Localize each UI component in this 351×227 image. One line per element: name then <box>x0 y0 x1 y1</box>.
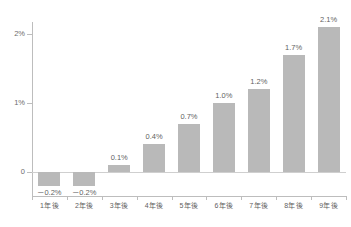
bar-value-label: 1.7% <box>285 44 302 52</box>
y-tick-label: 2% <box>1 30 25 38</box>
bar <box>38 172 60 186</box>
bar-value-label: 0.7% <box>180 113 197 121</box>
y-tick-mark <box>27 103 32 104</box>
bar-value-label: 1.2% <box>250 78 267 86</box>
x-axis-category-label: 1年後 <box>40 202 59 210</box>
x-axis-category-label: 2年後 <box>75 202 94 210</box>
bar <box>213 103 235 172</box>
y-tick-label: 1% <box>1 99 25 107</box>
x-axis-category-label: 4年後 <box>145 202 164 210</box>
x-axis-category-label: 5年後 <box>180 202 199 210</box>
x-tick-mark <box>346 196 347 200</box>
x-axis-category-label: 7年後 <box>249 202 268 210</box>
x-tick-mark <box>137 196 138 200</box>
y-tick-mark <box>27 172 32 173</box>
bar <box>73 172 95 186</box>
y-tick-label: 0 <box>1 168 25 176</box>
x-tick-mark <box>276 196 277 200</box>
x-tick-mark <box>67 196 68 200</box>
x-axis-category-label: 8年後 <box>284 202 303 210</box>
x-tick-mark <box>206 196 207 200</box>
bar-value-label: －0.2% <box>37 189 61 197</box>
x-tick-mark <box>102 196 103 200</box>
bar <box>283 55 305 172</box>
x-axis-category-label: 6年後 <box>214 202 233 210</box>
bar <box>108 165 130 172</box>
bar-value-label: 2.1% <box>320 16 337 24</box>
x-tick-mark <box>172 196 173 200</box>
bar-value-label: 0.1% <box>111 154 128 162</box>
x-tick-mark <box>241 196 242 200</box>
bar-chart: 01%2% －0.2%－0.2%0.1%0.4%0.7%1.0%1.2%1.7%… <box>0 0 351 227</box>
bar-value-label: 1.0% <box>215 92 232 100</box>
bar <box>143 144 165 172</box>
x-axis-category-label: 3年後 <box>110 202 129 210</box>
x-tick-mark <box>32 196 33 200</box>
bar <box>318 27 340 172</box>
bar <box>178 124 200 172</box>
y-tick-mark <box>27 34 32 35</box>
bar-value-label: 0.4% <box>146 133 163 141</box>
x-axis-category-label: 9年後 <box>319 202 338 210</box>
x-tick-mark <box>311 196 312 200</box>
y-axis-line <box>32 22 33 196</box>
bar-value-label: －0.2% <box>72 189 96 197</box>
bar <box>248 89 270 172</box>
